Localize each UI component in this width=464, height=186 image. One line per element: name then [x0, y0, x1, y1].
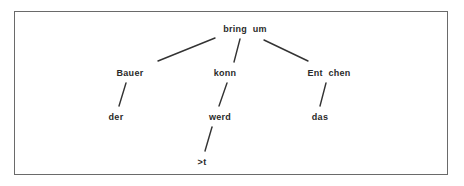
edge-bauer-der — [119, 83, 126, 106]
node-entchen: Ent chen — [307, 68, 350, 78]
node-konn: konn — [214, 68, 237, 78]
node-t: >t — [198, 157, 207, 167]
node-root: bring um — [223, 24, 267, 34]
node-werd: werd — [209, 112, 231, 122]
edge-entchen-das — [320, 83, 326, 106]
node-das: das — [312, 112, 328, 122]
node-der: der — [109, 112, 124, 122]
edge-konn-werd — [219, 83, 227, 106]
edge-root-entchen — [264, 40, 308, 61]
node-bauer: Bauer — [116, 68, 143, 78]
edge-root-bauer — [158, 38, 215, 61]
edge-root-konn — [234, 39, 240, 62]
edge-werd-t — [205, 127, 212, 151]
